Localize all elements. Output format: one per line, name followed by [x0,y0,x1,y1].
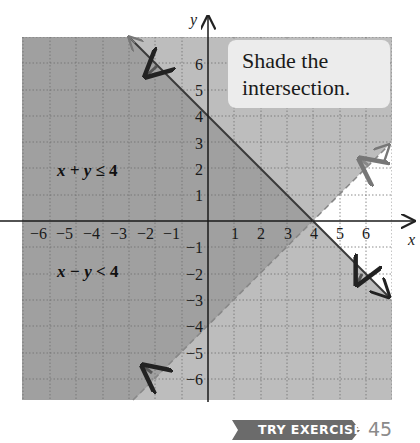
y-tick: −2 [186,267,203,283]
x-tick: 3 [284,226,292,242]
y-axis-label: y [190,12,197,28]
try-exercise-label[interactable]: TRY EXERCISE [258,422,363,437]
y-tick: −5 [186,346,203,362]
x-axis-label: x [408,232,415,248]
y-tick: 4 [195,109,203,125]
y-tick: −3 [186,293,203,309]
y-tick: −6 [186,372,203,388]
inequality-label-2: x − y < 4 [57,262,119,282]
y-tick: 3 [195,136,203,152]
exercise-number[interactable]: 45 [368,418,392,440]
x-tick: 4 [310,226,318,242]
x-tick: 6 [362,226,370,242]
y-tick: 6 [195,57,203,73]
inequality-label-1: x + y ≤ 4 [57,161,118,181]
x-tick: −5 [56,226,73,242]
x-tick: −1 [163,226,180,242]
x-tick: −4 [83,226,100,242]
x-tick: 1 [231,226,239,242]
x-tick: −2 [137,226,154,242]
y-tick: 2 [195,162,203,178]
x-tick: 2 [257,226,265,242]
x-tick: −6 [30,226,47,242]
instruction-text: Shade the intersection. [242,47,350,101]
x-tick: −3 [110,226,127,242]
y-tick: 1 [195,188,203,204]
y-tick: −4 [186,319,203,335]
x-tick: 5 [336,226,344,242]
y-tick: −1 [186,240,203,256]
y-tick: 5 [195,83,203,99]
